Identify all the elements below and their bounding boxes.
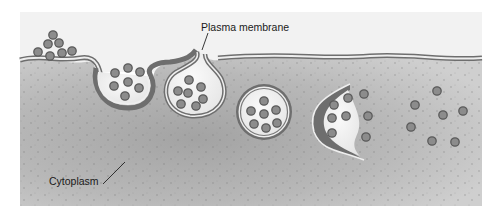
free-vesicle xyxy=(236,84,292,140)
plasma-membrane-label: Plasma membrane xyxy=(201,21,289,33)
endocytosis-diagram xyxy=(0,0,502,224)
cytoplasm-label: Cytoplasm xyxy=(49,175,99,187)
